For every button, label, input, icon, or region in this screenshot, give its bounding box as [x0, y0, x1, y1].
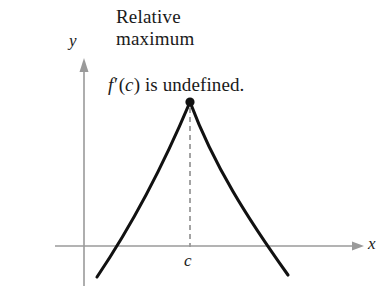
derivative-undefined-annotation: f′(c) is undefined. — [108, 74, 244, 96]
relative-maximum-annotation-line-2: maximum — [116, 28, 194, 50]
relative-maximum-point-marker — [185, 97, 194, 106]
y-axis-arrowhead — [80, 58, 89, 72]
x-axis-arrowhead — [352, 242, 364, 251]
graph-canvas — [0, 0, 389, 305]
x-axis-label: x — [368, 234, 376, 254]
relative-maximum-cusp-figure: Relative maximum f′(c) is undefined. y x… — [0, 0, 389, 305]
derivative-argument: c — [125, 74, 134, 95]
curve-right-branch — [190, 102, 288, 275]
y-axis-label: y — [69, 31, 77, 51]
relative-maximum-annotation-line-1: Relative — [116, 6, 194, 28]
derivative-statement-text: is undefined. — [140, 74, 244, 95]
relative-maximum-annotation: Relative maximum — [116, 6, 194, 51]
critical-point-tick-label: c — [184, 251, 192, 271]
curve-left-branch — [97, 102, 190, 277]
